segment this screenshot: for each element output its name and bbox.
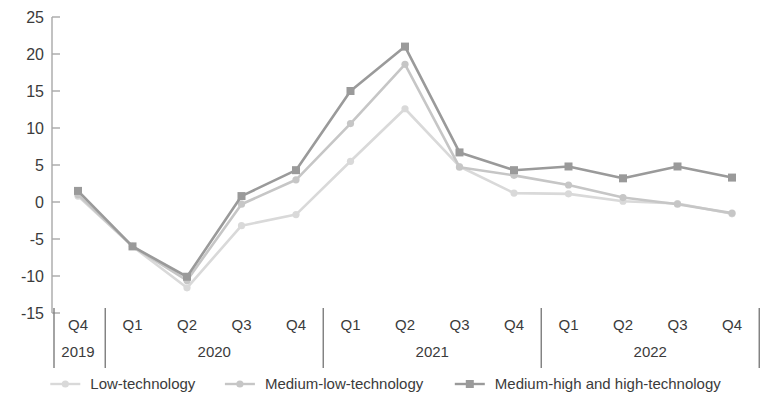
data-point-marker	[401, 43, 409, 51]
chart-container: 2520151050-5-10-15 Q42019Q1Q2Q3Q42020Q1Q…	[0, 0, 780, 419]
chart-legend: Low-technologyMedium-low-technologyMediu…	[50, 375, 721, 392]
x-quarter-label: Q3	[449, 316, 469, 333]
data-point-marker	[728, 210, 735, 217]
legend-item-low-technology[interactable]: Low-technology	[50, 375, 196, 392]
data-point-marker	[619, 194, 626, 201]
series-line	[78, 64, 732, 280]
data-point-marker	[674, 162, 682, 170]
y-tick-label: -15	[21, 305, 44, 322]
data-point-marker	[401, 61, 408, 68]
legend-marker-icon	[236, 380, 243, 387]
data-point-marker	[565, 190, 572, 197]
data-point-marker	[401, 105, 408, 112]
data-point-marker	[510, 166, 518, 174]
x-year-label: 2020	[198, 343, 231, 360]
data-point-marker	[238, 222, 245, 229]
x-quarter-label: Q1	[558, 316, 578, 333]
legend-label: Medium-high and high-technology	[495, 375, 721, 392]
x-quarter-label: Q4	[68, 316, 88, 333]
x-quarter-label: Q1	[340, 316, 360, 333]
legend-marker-icon	[466, 380, 474, 388]
series-medium-high-and-high-technology	[74, 43, 736, 281]
data-point-marker	[129, 242, 137, 250]
x-quarter-label: Q4	[504, 316, 524, 333]
legend-item-medium-low-technology[interactable]: Medium-low-technology	[225, 375, 424, 392]
x-quarter-label: Q1	[122, 316, 142, 333]
y-tick-label: 15	[26, 83, 44, 100]
x-year-label: 2021	[416, 343, 449, 360]
y-tick-label: 20	[26, 46, 44, 63]
data-point-marker	[456, 164, 463, 171]
y-tick-label: 10	[26, 120, 44, 137]
legend-item-medium-high-and-high-technology[interactable]: Medium-high and high-technology	[455, 375, 721, 392]
data-point-marker	[728, 174, 736, 182]
data-point-marker	[347, 120, 354, 127]
series-medium-low-technology	[74, 61, 735, 284]
data-point-marker	[510, 190, 517, 197]
data-point-marker	[292, 166, 300, 174]
legend-marker-icon	[62, 380, 69, 387]
y-tick-label: -5	[30, 231, 44, 248]
data-point-marker	[565, 162, 573, 170]
y-tick-label: 5	[35, 157, 44, 174]
x-axis-label-group: Q42019Q1Q2Q3Q42020Q1Q2Q3Q42021Q1Q2Q3Q420…	[61, 316, 742, 360]
x-year-label: 2022	[634, 343, 667, 360]
x-quarter-label: Q4	[722, 316, 742, 333]
data-point-marker	[347, 87, 355, 95]
y-tick-group: 2520151050-5-10-15	[21, 9, 60, 322]
x-year-label: 2019	[61, 343, 94, 360]
line-chart: 2520151050-5-10-15 Q42019Q1Q2Q3Q42020Q1Q…	[0, 0, 780, 419]
data-point-marker	[183, 284, 190, 291]
x-quarter-label: Q2	[177, 316, 197, 333]
data-point-marker	[183, 273, 191, 281]
x-quarter-label: Q2	[613, 316, 633, 333]
x-quarter-label: Q2	[395, 316, 415, 333]
data-point-marker	[292, 211, 299, 218]
data-point-marker	[74, 187, 82, 195]
data-point-marker	[674, 201, 681, 208]
series-line	[78, 47, 732, 277]
y-tick-label: -10	[21, 268, 44, 285]
y-tick-label: 25	[26, 9, 44, 26]
x-quarter-label: Q3	[667, 316, 687, 333]
y-axis: 2520151050-5-10-15	[21, 9, 60, 322]
legend-label: Medium-low-technology	[265, 375, 424, 392]
data-point-marker	[238, 192, 246, 200]
data-point-marker	[456, 148, 464, 156]
data-point-marker	[565, 181, 572, 188]
x-quarter-label: Q3	[231, 316, 251, 333]
data-point-marker	[347, 158, 354, 165]
x-quarter-label: Q4	[286, 316, 306, 333]
data-point-marker	[619, 174, 627, 182]
y-tick-label: 0	[35, 194, 44, 211]
series-group	[74, 43, 736, 292]
data-point-marker	[292, 176, 299, 183]
legend-label: Low-technology	[90, 375, 196, 392]
